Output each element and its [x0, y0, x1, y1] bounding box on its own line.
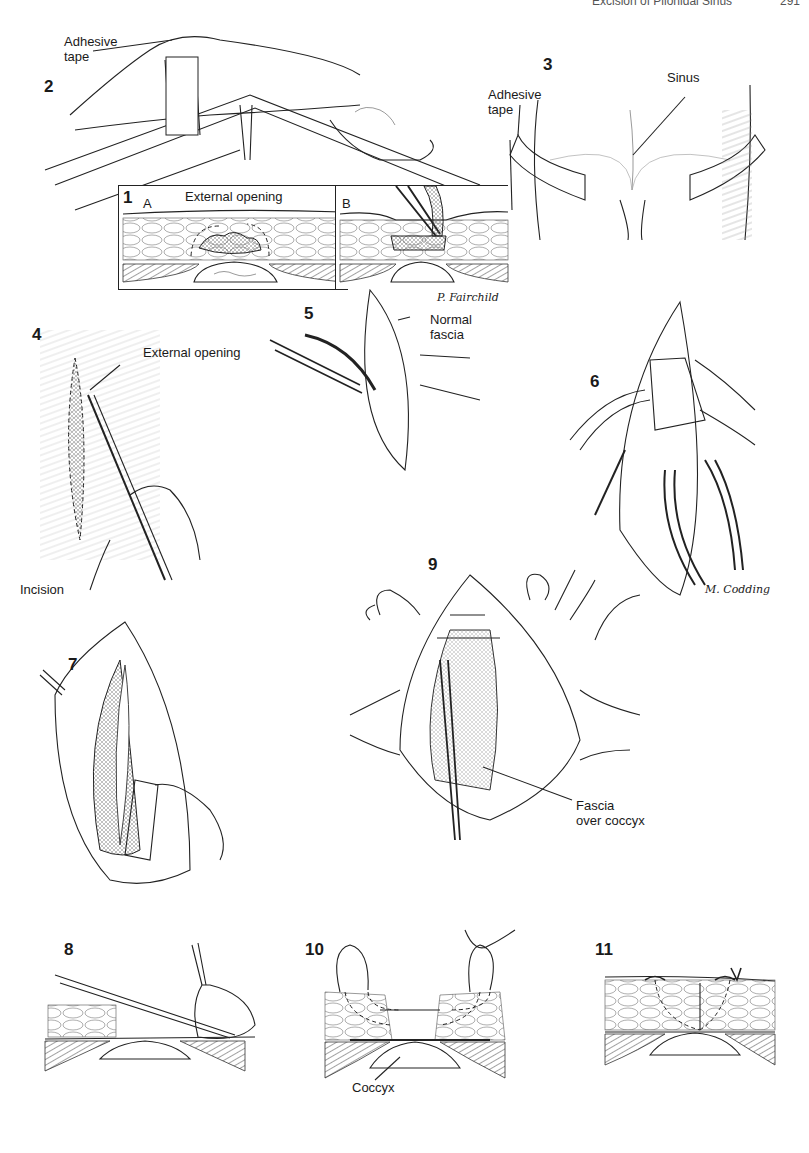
- running-title: Excision of Pilonidal Sinus: [592, 0, 732, 8]
- figure-10: 10 Coccyx: [300, 930, 580, 1100]
- label-fascia-over-coccyx: Fascia over coccyx: [576, 798, 645, 828]
- page-number: 291: [780, 0, 800, 8]
- label-line: fascia: [430, 327, 472, 342]
- panel-letter-a: A: [143, 196, 152, 211]
- figure-9: 9 Fascia over coccyx: [340, 550, 660, 890]
- figure-number: 5: [304, 304, 313, 324]
- figure-number: 10: [305, 940, 324, 960]
- label-line: tape: [488, 102, 541, 117]
- figure-1-panel-b: B: [335, 185, 508, 289]
- label-line: Adhesive: [488, 87, 541, 102]
- leader-line: [0, 0, 500, 215]
- label-adhesive-tape: Adhesive tape: [488, 87, 541, 117]
- label-external-opening: External opening: [143, 345, 241, 360]
- label-incision: Incision: [20, 582, 64, 597]
- figure-5: 5 Normal fascia: [270, 290, 490, 480]
- label-line: Normal: [430, 312, 472, 327]
- figure-11: 11: [595, 935, 795, 1075]
- label-normal-fascia: Normal fascia: [430, 312, 472, 342]
- label-line: Fascia: [576, 798, 645, 813]
- figure-number: 11: [595, 940, 613, 960]
- figure-1-panel-a: 1 A External opening: [118, 185, 348, 290]
- figure-10-illustration: [300, 930, 580, 1100]
- artist-signature: M. Codding: [705, 583, 770, 596]
- figure-number: 9: [428, 555, 437, 575]
- figure-8: 8: [40, 935, 310, 1085]
- tissue-cross-section-b: [336, 186, 508, 289]
- figure-number: 6: [590, 372, 599, 392]
- label-coccyx: Coccyx: [352, 1080, 395, 1095]
- label-sinus: Sinus: [667, 70, 700, 85]
- figure-7: 7: [40, 620, 250, 890]
- figure-2: 2 Adhesive tape: [0, 0, 500, 215]
- figure-8-illustration: [40, 935, 310, 1085]
- figure-number: 7: [68, 655, 77, 675]
- figure-11-illustration: [595, 935, 795, 1075]
- figure-number: 3: [543, 55, 552, 75]
- figure-number: 8: [64, 940, 73, 960]
- figure-number: 4: [32, 325, 41, 345]
- figure-3: 3 Adhesive tape Sinus: [490, 40, 790, 250]
- figure-number: 1: [123, 188, 132, 208]
- label-external-opening: External opening: [185, 189, 283, 204]
- figure-4: 4 External opening Incision: [20, 300, 300, 600]
- label-line: over coccyx: [576, 813, 645, 828]
- figure-3-illustration: [490, 40, 790, 250]
- panel-letter-b: B: [342, 196, 351, 211]
- figure-9-illustration: [340, 550, 660, 890]
